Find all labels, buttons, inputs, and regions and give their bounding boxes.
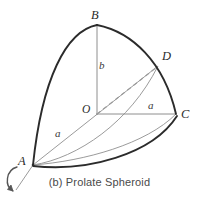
vertex-label-D: D — [162, 50, 171, 63]
dimension-label-a-right: a — [148, 100, 154, 111]
segment-a-from-A-to-D — [33, 66, 158, 165]
vertex-label-C: C — [181, 108, 189, 121]
prolate-spheroid-figure: B D C O A b a a (b) Prolate Spheroid — [0, 0, 199, 198]
vertex-dot-A — [32, 164, 35, 167]
vertex-label-A: A — [18, 155, 26, 168]
dimension-label-b: b — [99, 60, 105, 71]
figure-drawing — [0, 0, 199, 198]
vertex-label-O: O — [82, 104, 90, 116]
vertex-label-B: B — [91, 9, 99, 22]
dimension-label-a-left: a — [55, 128, 61, 139]
figure-caption: (b) Prolate Spheroid — [0, 176, 199, 188]
